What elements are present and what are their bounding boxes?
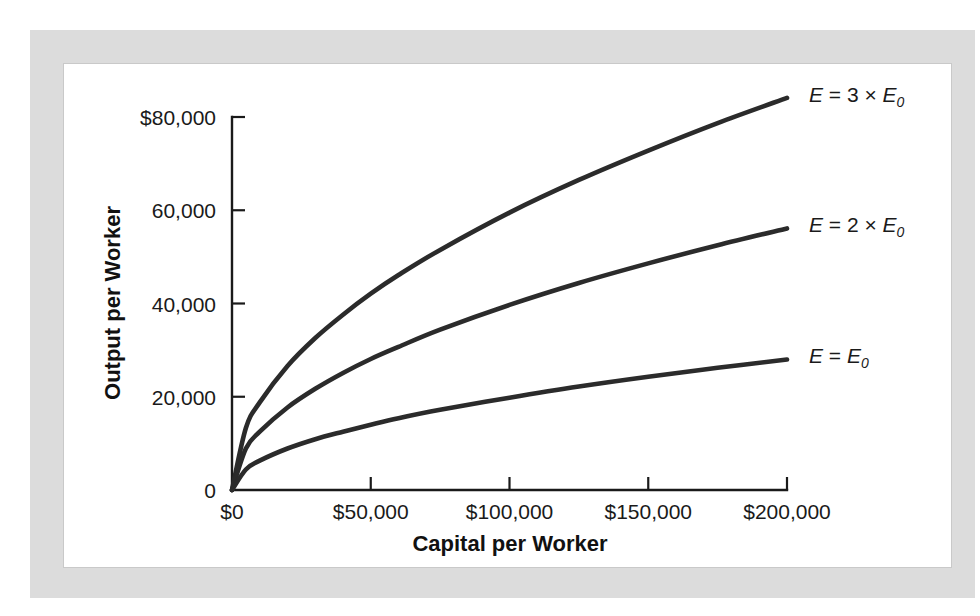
- y-axis-tick-labels: 020,00040,00060,000$80,000: [140, 106, 216, 502]
- x-tick-label: $200,000: [743, 500, 831, 523]
- curves-group: [232, 98, 787, 490]
- series-label-part: ×: [859, 213, 883, 236]
- series-label-subscript: 0: [897, 224, 905, 240]
- x-axis-title: Capital per Worker: [412, 531, 608, 556]
- series-label-part: E: [847, 344, 862, 367]
- y-tick-label: 60,000: [152, 199, 216, 222]
- series-label-part: =: [823, 83, 847, 106]
- y-axis-title: Output per Worker: [100, 206, 125, 400]
- series-label-part: E: [883, 83, 898, 106]
- series-label-part: =: [823, 344, 847, 367]
- y-axis-ticks: [232, 117, 245, 397]
- y-tick-label: 20,000: [152, 386, 216, 409]
- series-label-3: E = E0: [809, 344, 869, 371]
- x-tick-label: $100,000: [466, 500, 554, 523]
- series-label-part: E: [809, 344, 824, 367]
- y-tick-label: 0: [204, 479, 216, 502]
- series-label-part: 3: [847, 83, 859, 106]
- curve-1: [232, 98, 787, 490]
- series-label-part: =: [823, 213, 847, 236]
- production-function-chart: 020,00040,00060,000$80,000 $0$50,000$100…: [0, 0, 980, 616]
- curve-2: [232, 228, 787, 490]
- series-label-subscript: 0: [861, 355, 869, 371]
- series-label-part: E: [809, 213, 824, 236]
- series-label-part: E: [809, 83, 824, 106]
- x-axis-tick-labels: $0$50,000$100,000$150,000$200,000: [220, 500, 830, 523]
- series-label-part: ×: [859, 83, 883, 106]
- series-label-2: E = 2 × E0: [809, 213, 905, 240]
- x-axis-ticks: [371, 477, 787, 490]
- series-label-part: E: [883, 213, 898, 236]
- figure-root: 020,00040,00060,000$80,000 $0$50,000$100…: [0, 0, 980, 616]
- series-label-subscript: 0: [897, 94, 905, 110]
- y-tick-label: 40,000: [152, 293, 216, 316]
- curve-3: [232, 359, 787, 490]
- x-tick-label: $150,000: [604, 500, 692, 523]
- series-label-part: 2: [847, 213, 859, 236]
- series-label-1: E = 3 × E0: [809, 83, 905, 110]
- series-labels-group: E = 3 × E0E = 2 × E0E = E0: [809, 83, 905, 372]
- x-tick-label: $50,000: [333, 500, 409, 523]
- y-tick-label: $80,000: [140, 106, 216, 129]
- x-tick-label: $0: [220, 500, 243, 523]
